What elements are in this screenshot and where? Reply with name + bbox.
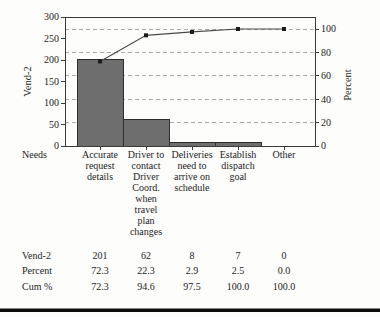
left-axis-tick-label: 300 — [44, 11, 59, 22]
left-axis-tick-label: 250 — [44, 33, 59, 44]
category-label-line: need to — [177, 160, 206, 171]
bar-series — [77, 60, 261, 146]
data-table: Vend-220162870Percent72.322.32.92.50.0Cu… — [22, 250, 295, 292]
category-label-line: plan — [137, 215, 154, 226]
table-cell: 7 — [236, 250, 241, 261]
category-label-line: dispatch — [221, 160, 254, 171]
bar — [123, 119, 169, 146]
table-cell: 72.3 — [91, 265, 109, 276]
data-point-marker — [190, 30, 194, 34]
bar — [169, 143, 215, 146]
left-axis-tick-label: 0 — [54, 140, 59, 151]
category-label: Establishdispatchgoal — [220, 149, 257, 182]
bottom-rule — [0, 309, 380, 313]
table-cell: 0.0 — [278, 265, 291, 276]
pareto-chart: 050100150200250300020406080100 Vend-2 Pe… — [0, 0, 380, 317]
category-label-line: when — [135, 193, 157, 204]
table-row: Percent72.322.32.92.50.0 — [22, 265, 290, 276]
category-label-line: Deliveries — [171, 149, 212, 160]
table-cell: 72.3 — [91, 281, 109, 292]
right-axis-tick-label: 20 — [321, 117, 331, 128]
category-label: Deliveriesneed toarrive onschedule — [171, 149, 212, 193]
left-axis-tick-label: 50 — [49, 119, 59, 130]
table-cell: 97.5 — [183, 281, 201, 292]
data-point-marker — [282, 27, 286, 31]
right-axis-title: Percent — [342, 69, 353, 101]
category-label: Driver tocontactDriverCoord.whentravelpl… — [128, 149, 164, 237]
category-label-line: goal — [229, 171, 246, 182]
category-labels: AccuraterequestdetailsDriver tocontactDr… — [82, 149, 296, 237]
category-label-line: Driver to — [128, 149, 164, 160]
left-axis-tick-label: 150 — [44, 76, 59, 87]
table-row: Vend-220162870 — [22, 250, 287, 261]
category-label-line: changes — [130, 226, 162, 237]
right-axis-tick-label: 100 — [321, 23, 336, 34]
table-row-label: Vend-2 — [22, 250, 51, 261]
table-cell: 2.9 — [186, 265, 199, 276]
x-axis-title: Needs — [22, 149, 47, 160]
cumulative-line-series — [98, 27, 286, 63]
table-cell: 94.6 — [137, 281, 155, 292]
category-label-line: Coord. — [132, 182, 160, 193]
category-label: Accuraterequestdetails — [82, 149, 119, 182]
data-point-marker — [144, 33, 148, 37]
table-cell: 62 — [141, 250, 151, 261]
table-row-label: Cum % — [22, 281, 52, 292]
category-label-line: Other — [273, 149, 296, 160]
category-label-line: request — [86, 160, 115, 171]
left-axis-tick-label: 200 — [44, 54, 59, 65]
category-label-line: arrive on — [174, 171, 210, 182]
category-label-line: Accurate — [82, 149, 119, 160]
data-point-marker — [236, 27, 240, 31]
category-label-line: Establish — [220, 149, 257, 160]
category-label-line: schedule — [175, 182, 211, 193]
left-axis-tick-label: 100 — [44, 97, 59, 108]
table-cell: 8 — [190, 250, 195, 261]
right-axis-tick-label: 0 — [321, 140, 326, 151]
table-row: Cum %72.394.697.5100.0100.0 — [22, 281, 295, 292]
left-axis-title: Vend-2 — [22, 66, 33, 96]
table-cell: 0 — [282, 250, 287, 261]
table-cell: 22.3 — [137, 265, 155, 276]
category-label-line: travel — [135, 204, 158, 215]
pareto-chart-figure: 050100150200250300020406080100 Vend-2 Pe… — [0, 0, 380, 317]
table-row-label: Percent — [22, 265, 52, 276]
right-axis-tick-label: 40 — [321, 94, 331, 105]
category-label-line: contact — [132, 160, 161, 171]
right-axis-tick-label: 60 — [321, 70, 331, 81]
data-point-marker — [98, 59, 102, 63]
category-label: Other — [273, 149, 296, 160]
category-label-line: details — [87, 171, 113, 182]
table-cell: 100.0 — [227, 281, 250, 292]
table-cell: 201 — [93, 250, 108, 261]
table-cell: 100.0 — [273, 281, 296, 292]
bar — [77, 60, 123, 146]
table-cell: 2.5 — [232, 265, 245, 276]
right-axis-tick-label: 80 — [321, 47, 331, 58]
category-label-line: Driver — [133, 171, 160, 182]
